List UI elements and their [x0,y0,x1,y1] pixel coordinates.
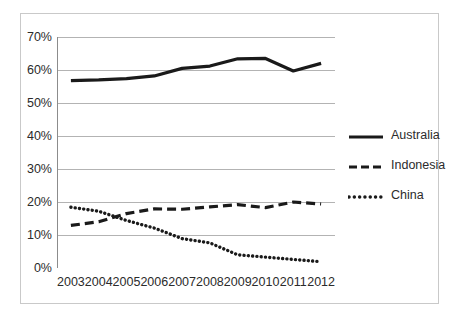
y-tick-label: 70% [12,31,52,44]
chart-legend: AustraliaIndonesiaChina [348,122,438,212]
y-tick-label: 50% [12,97,52,110]
legend-swatch-dotted [348,189,384,201]
x-tick-label: 2009 [224,276,252,289]
x-axis: 2003200420052006200720082009201020112012 [57,276,335,296]
y-tick-label: 40% [12,130,52,143]
x-tick-label: 2011 [280,276,307,289]
x-tick-label: 2008 [196,276,224,289]
x-tick-label: 2007 [168,276,196,289]
legend-swatch-dashed [348,159,384,171]
series-line-china [71,207,321,261]
x-tick-label: 2004 [85,276,113,289]
legend-label: Indonesia [391,158,445,172]
plot-area [57,37,335,268]
chart-container: 70%60%50%40%30%20%10%0% 2003200420052006… [0,0,459,324]
legend-label: China [391,188,424,202]
x-tick-label: 2003 [57,276,85,289]
y-tick-label: 60% [12,64,52,77]
legend-label: Australia [391,128,440,142]
x-tick-label: 2012 [307,276,335,289]
y-tick-label: 0% [12,262,52,275]
legend-item-china[interactable]: China [348,182,438,208]
x-tick-label: 2005 [113,276,141,289]
legend-item-indonesia[interactable]: Indonesia [348,152,438,178]
y-tick-label: 10% [12,229,52,242]
y-tick-label: 20% [12,196,52,209]
legend-swatch-solid [348,129,384,141]
y-axis: 70%60%50%40%30%20%10%0% [8,0,52,324]
y-tick-label: 30% [12,163,52,176]
legend-item-australia[interactable]: Australia [348,122,438,148]
series-lines [71,58,321,261]
x-tick-label: 2010 [252,276,280,289]
series-line-australia [71,58,321,80]
plot-svg [57,37,335,268]
x-tick-label: 2006 [140,276,168,289]
